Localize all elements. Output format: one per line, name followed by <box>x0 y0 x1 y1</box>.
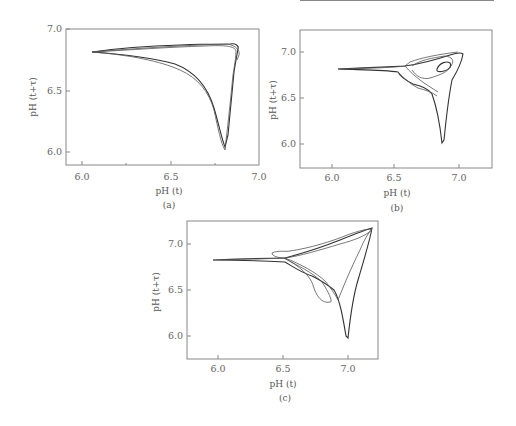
trajectory-curve <box>213 228 372 338</box>
panel-c: 7.0 6.5 6.0 6.0 6.5 7.0 pH (t) pH (t+τ) … <box>151 221 378 403</box>
x-tick-label: 7.0 <box>340 363 355 374</box>
trajectory-curve <box>285 228 372 300</box>
x-tick-label: 6.0 <box>210 363 225 374</box>
x-tick-label: 7.0 <box>451 172 466 183</box>
x-axis-label: pH (t) <box>155 186 182 196</box>
x-tick-label: 6.0 <box>324 172 339 183</box>
x-tick-label: 7.0 <box>251 171 266 182</box>
plot-frame <box>187 221 378 359</box>
y-axis-label: pH (t+τ) <box>28 77 38 117</box>
y-tick-label: 7.0 <box>47 23 62 34</box>
trajectory-curve <box>213 258 331 302</box>
panel-caption: (b) <box>391 203 404 213</box>
trajectory-curve <box>92 44 238 147</box>
x-tick-label: 6.5 <box>275 363 290 374</box>
inner-loop <box>437 62 451 72</box>
y-tick-label: 6.5 <box>168 284 183 295</box>
x-tick-label: 6.5 <box>386 172 401 183</box>
panel-a: 7.0 6.5 6.0 6.0 6.5 7.0 pH (t) pH (t+τ) … <box>28 23 267 210</box>
figure: 7.0 6.5 6.0 6.0 6.5 7.0 pH (t) pH (t+τ) … <box>0 0 516 426</box>
x-tick-label: 6.5 <box>163 171 178 182</box>
x-axis-label: pH (t) <box>383 188 410 198</box>
y-tick-label: 7.0 <box>281 46 296 57</box>
x-axis-label: pH (t) <box>269 379 296 389</box>
y-tick-label: 6.0 <box>168 330 183 341</box>
y-tick-label: 6.0 <box>281 138 296 149</box>
plot-frame <box>66 29 259 165</box>
panel-b: 7.0 6.5 6.0 6.0 6.5 7.0 pH (t) pH (t+τ) … <box>268 30 492 213</box>
y-axis-label: pH (t+τ) <box>268 80 278 120</box>
trajectory-curve <box>92 44 239 60</box>
y-tick-label: 6.5 <box>47 85 62 96</box>
y-tick-label: 7.0 <box>168 238 183 249</box>
panel-caption: (a) <box>163 200 175 210</box>
plot-frame <box>300 30 492 168</box>
panel-caption: (c) <box>279 393 291 403</box>
x-tick-label: 6.0 <box>74 171 89 182</box>
y-axis-label: pH (t+τ) <box>151 272 161 312</box>
y-tick-label: 6.0 <box>47 146 62 157</box>
y-tick-label: 6.5 <box>281 92 296 103</box>
